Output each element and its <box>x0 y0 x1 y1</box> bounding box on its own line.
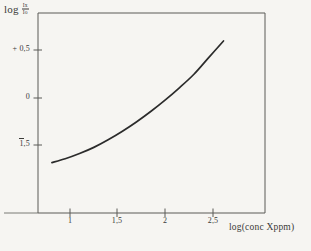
y-axis-title-fraction: Ix Io <box>22 3 29 16</box>
y-axis-fraction-denominator: Io <box>22 9 29 15</box>
y-tick-label-0: + 0,5 <box>2 44 30 53</box>
data-curve <box>52 41 224 163</box>
y-axis-title-log: log <box>4 3 19 15</box>
x-tick-label-1: 1,5 <box>106 216 128 225</box>
plot-frame <box>38 13 265 213</box>
negative-overbar-number: 1,5 <box>19 139 30 148</box>
y-tick-label-2: 1,5 <box>2 139 30 148</box>
figure-canvas: log Ix Io log(conc Xppm) + 0,5 0 1,5 1 1… <box>0 0 311 251</box>
x-tick-label-2: 2 <box>155 216 175 225</box>
plot-area <box>0 0 311 251</box>
overbar-mark <box>19 138 23 139</box>
y-tick-label-2-text: 1,5 <box>19 139 30 148</box>
y-axis-title: log Ix Io <box>4 2 29 15</box>
y-tick-label-1: 0 <box>2 92 30 101</box>
x-tick-label-3: 2,5 <box>202 216 224 225</box>
x-axis-title: log(conc Xppm) <box>229 222 294 232</box>
x-tick-label-0: 1 <box>60 216 80 225</box>
